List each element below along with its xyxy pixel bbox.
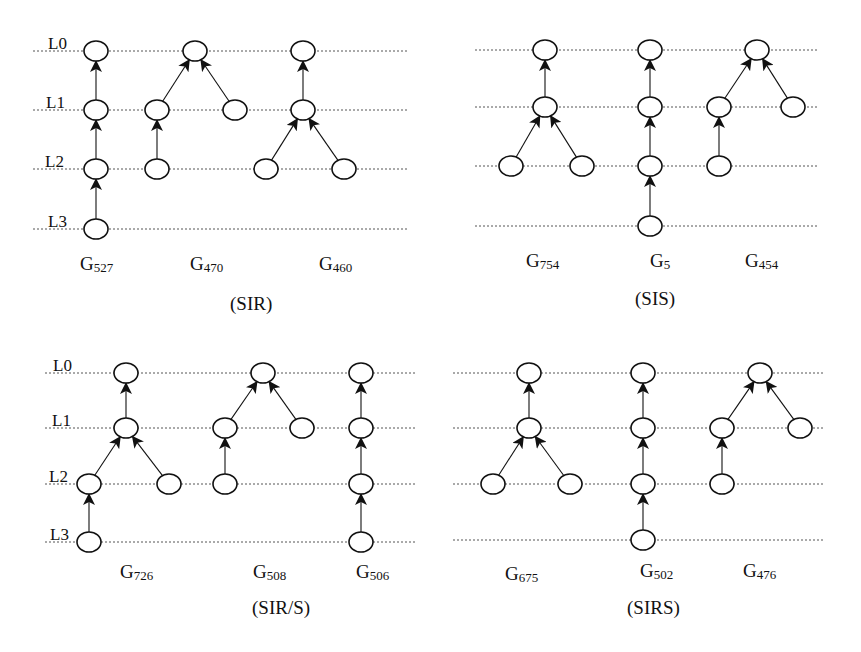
edge-arrow (763, 59, 788, 98)
graph-node (349, 474, 373, 494)
graph-G726: G726 (77, 363, 181, 583)
graph-node (213, 474, 237, 494)
edge-arrow (728, 382, 754, 420)
figure-panels: L0L1L2L3G527G470G460(SIR)G754G5G454(SIS)… (33, 34, 823, 619)
graph-G470: G470 (145, 41, 247, 275)
graph-node (707, 156, 731, 176)
graph-label-name: G (745, 250, 759, 271)
graph-node (291, 100, 315, 120)
graph-node (332, 159, 356, 179)
level-label: L3 (48, 212, 67, 231)
graph-node (638, 40, 662, 60)
edge-arrow (201, 60, 229, 102)
graph-node (710, 418, 734, 438)
graph-node (517, 418, 541, 438)
graph-label-subscript: 675 (519, 570, 539, 585)
panel-caption: (SIRS) (627, 597, 680, 619)
graph-node (349, 363, 373, 383)
graph-label-name: G (80, 253, 94, 274)
graph-label-subscript: 726 (134, 568, 154, 583)
panel-sir: L0L1L2L3G527G470G460(SIR) (33, 34, 407, 315)
graph-G506: G506 (349, 363, 390, 583)
graph-node (533, 40, 557, 60)
graph-label: G726 (120, 561, 154, 583)
graph-node (183, 41, 207, 61)
graph-label-subscript: 506 (370, 568, 390, 583)
graph-label-subscript: 502 (654, 567, 674, 582)
edge-arrow (163, 60, 190, 101)
edge-arrow (725, 59, 751, 99)
graph-node (290, 418, 314, 438)
graph-G675: G675 (481, 363, 582, 585)
level-label: L0 (53, 356, 72, 375)
graph-G527: G527 (80, 41, 114, 275)
panel-caption: (SIS) (635, 288, 675, 310)
graph-label: G470 (190, 253, 223, 275)
graph-label-name: G (319, 253, 333, 274)
graph-node (77, 474, 101, 494)
graph-node (77, 532, 101, 552)
graph-node (638, 156, 662, 176)
graph-G454: G454 (707, 40, 805, 272)
graph-G5: G5 (638, 40, 670, 272)
edge-arrow (309, 119, 338, 161)
graph-node (707, 97, 731, 117)
panel-sirs: G675G502G476(SIRS) (453, 363, 823, 619)
graph-label: G675 (505, 563, 538, 585)
graph-node (84, 219, 108, 239)
graph-node (499, 156, 523, 176)
graph-node (558, 474, 582, 494)
edge-arrow (766, 382, 794, 420)
graph-node (631, 474, 655, 494)
graph-label: G454 (745, 250, 779, 272)
graph-node (748, 363, 772, 383)
edge-arrow (269, 382, 296, 420)
graph-node (254, 159, 278, 179)
level-label: L2 (49, 467, 68, 486)
graph-node (223, 100, 247, 120)
graph-node (213, 418, 237, 438)
panel-sis: G754G5G454(SIS) (475, 40, 817, 310)
graph-node (781, 97, 805, 117)
graph-node (631, 530, 655, 550)
panel-caption: (SIR/S) (252, 597, 310, 619)
graph-node (638, 97, 662, 117)
graph-node (114, 418, 138, 438)
graph-G508: G508 (213, 363, 314, 583)
graph-label-name: G (120, 561, 134, 582)
graph-G460: G460 (254, 41, 356, 275)
level-label: L3 (50, 525, 69, 544)
graph-node (788, 418, 812, 438)
graph-node (84, 159, 108, 179)
edge-arrow (499, 437, 524, 475)
panel-sir-s: L0L1L2L3G726G508G506(SIR/S) (45, 356, 415, 619)
graph-label-name: G (190, 253, 204, 274)
graph-node (745, 40, 769, 60)
graph-node (291, 41, 315, 61)
graph-label: G460 (319, 253, 352, 275)
graph-G754: G754 (499, 40, 594, 272)
graph-label-subscript: 5 (664, 257, 671, 272)
graph-node (631, 363, 655, 383)
graph-label: G754 (526, 250, 560, 272)
edge-arrow (516, 116, 540, 157)
graph-node (84, 41, 108, 61)
graph-node (114, 363, 138, 383)
graph-label-name: G (253, 561, 267, 582)
graph-label: G527 (80, 253, 114, 275)
graph-label: G5 (650, 250, 670, 272)
graph-label: G476 (743, 560, 777, 582)
edge-arrow (551, 116, 577, 157)
graph-label-subscript: 470 (204, 260, 224, 275)
level-label: L1 (52, 411, 71, 430)
graph-node (84, 100, 108, 120)
graph-node (631, 418, 655, 438)
level-label: L0 (48, 34, 67, 53)
graph-node (481, 474, 505, 494)
diagram-canvas: L0L1L2L3G527G470G460(SIR)G754G5G454(SIS)… (0, 0, 861, 652)
graph-node (517, 363, 541, 383)
graph-node (251, 363, 275, 383)
graph-node (349, 418, 373, 438)
graph-label: G502 (640, 560, 673, 582)
graph-node (638, 216, 662, 236)
